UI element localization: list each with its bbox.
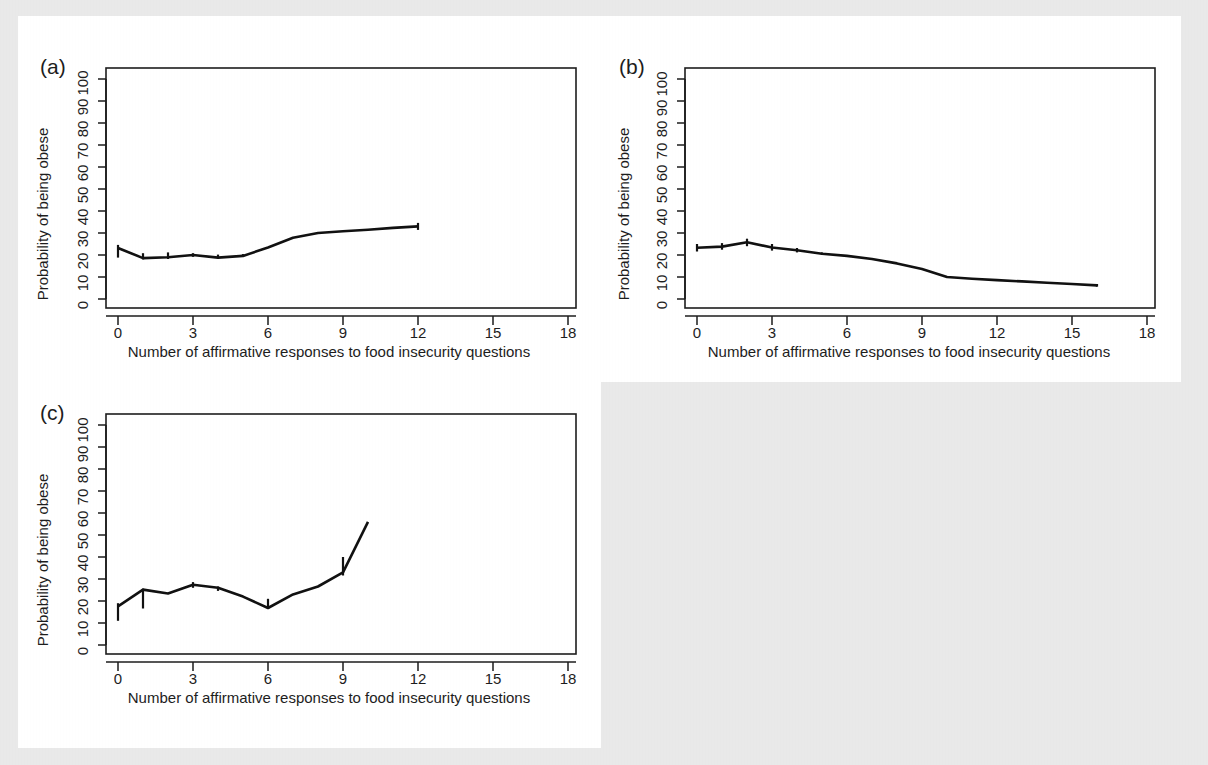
xtick-label: 0 xyxy=(114,324,122,341)
ytick-label: 90 xyxy=(653,100,670,117)
figure-root: (a) Probability of being obese Number of… xyxy=(0,0,1208,765)
ytick-label: 20 xyxy=(653,253,670,270)
panel-a: (a) Probability of being obese Number of… xyxy=(18,16,601,382)
ytick-label: 80 xyxy=(74,467,91,484)
ytick-label: 100 xyxy=(74,70,91,95)
panel-b-xtick-labels: 0 3 6 9 12 15 18 xyxy=(693,324,1156,341)
xtick-label: 18 xyxy=(1139,324,1156,341)
panel-a-svg: (a) Probability of being obese Number of… xyxy=(18,16,601,382)
panel-a-yticks xyxy=(98,79,106,299)
ytick-label: 40 xyxy=(74,555,91,572)
panel-a-xlabel: Number of affirmative responses to food … xyxy=(128,343,530,360)
xtick-label: 0 xyxy=(114,670,122,687)
panel-c-xlabel: Number of affirmative responses to food … xyxy=(128,689,530,706)
panel-c-ylabel: Probability of being obese xyxy=(34,474,51,647)
panel-b-xlabel: Number of affirmative responses to food … xyxy=(708,343,1110,360)
ytick-label: 100 xyxy=(74,417,91,442)
panel-c: (c) Probability of being obese Number of… xyxy=(18,382,601,748)
panel-b-yticks xyxy=(677,79,685,299)
xtick-label: 9 xyxy=(339,324,347,341)
xtick-label: 18 xyxy=(560,324,577,341)
ytick-label: 50 xyxy=(653,187,670,204)
xtick-label: 3 xyxy=(189,670,197,687)
panel-b: (b) Probability of being obese Number of… xyxy=(601,16,1181,382)
ytick-label: 0 xyxy=(653,301,670,309)
ytick-label: 50 xyxy=(74,187,91,204)
panel-b-ytick-labels: 0 10 20 30 40 50 60 70 80 90 100 xyxy=(653,71,670,309)
ytick-label: 70 xyxy=(74,489,91,506)
xtick-label: 3 xyxy=(189,324,197,341)
panel-c-data-line xyxy=(118,522,368,608)
xtick-label: 18 xyxy=(560,670,577,687)
panel-c-yticks xyxy=(98,425,106,645)
xtick-label: 6 xyxy=(264,324,272,341)
panel-b-plot-frame xyxy=(685,68,1155,308)
xtick-label: 15 xyxy=(485,670,502,687)
ytick-label: 0 xyxy=(74,301,91,309)
xtick-label: 3 xyxy=(768,324,776,341)
xtick-label: 12 xyxy=(410,670,427,687)
panel-a-letter: (a) xyxy=(40,55,66,78)
xtick-label: 15 xyxy=(485,324,502,341)
panel-b-ylabel: Probability of being obese xyxy=(615,128,632,301)
xtick-label: 6 xyxy=(264,670,272,687)
ytick-label: 60 xyxy=(653,165,670,182)
ytick-label: 10 xyxy=(74,275,91,292)
ytick-label: 60 xyxy=(74,511,91,528)
panel-b-data-line xyxy=(697,242,1097,285)
ytick-label: 90 xyxy=(74,446,91,463)
panel-a-data-line xyxy=(118,226,418,258)
xtick-label: 9 xyxy=(918,324,926,341)
ytick-label: 20 xyxy=(74,599,91,616)
ytick-label: 100 xyxy=(653,71,670,96)
panel-c-svg: (c) Probability of being obese Number of… xyxy=(18,382,601,748)
ytick-label: 90 xyxy=(74,99,91,116)
xtick-label: 12 xyxy=(989,324,1006,341)
ytick-label: 80 xyxy=(74,121,91,138)
xtick-label: 9 xyxy=(339,670,347,687)
panel-b-letter: (b) xyxy=(619,55,645,78)
ytick-label: 60 xyxy=(74,165,91,182)
ytick-label: 10 xyxy=(74,621,91,638)
xtick-label: 0 xyxy=(693,324,701,341)
panel-a-ytick-labels: 0 10 20 30 40 50 60 70 80 90 100 xyxy=(74,70,91,309)
ytick-label: 80 xyxy=(653,121,670,138)
ytick-label: 70 xyxy=(74,143,91,160)
panel-c-letter: (c) xyxy=(40,401,65,424)
xtick-label: 6 xyxy=(843,324,851,341)
xtick-label: 12 xyxy=(410,324,427,341)
panel-c-plot-frame xyxy=(106,414,576,654)
ytick-label: 50 xyxy=(74,533,91,550)
ytick-label: 40 xyxy=(653,209,670,226)
xtick-label: 15 xyxy=(1064,324,1081,341)
ytick-label: 70 xyxy=(653,143,670,160)
ytick-label: 10 xyxy=(653,275,670,292)
ytick-label: 20 xyxy=(74,253,91,270)
ytick-label: 30 xyxy=(653,231,670,248)
panel-b-svg: (b) Probability of being obese Number of… xyxy=(601,16,1181,382)
panel-a-xtick-labels: 0 3 6 9 12 15 18 xyxy=(114,324,577,341)
panel-a-plot-frame xyxy=(106,68,576,308)
panel-a-ylabel: Probability of being obese xyxy=(34,128,51,301)
panel-c-ytick-labels: 0 10 20 30 40 50 60 70 80 90 100 xyxy=(74,417,91,655)
ytick-label: 40 xyxy=(74,209,91,226)
ytick-label: 0 xyxy=(74,647,91,655)
ytick-label: 30 xyxy=(74,231,91,248)
panel-c-xtick-labels: 0 3 6 9 12 15 18 xyxy=(114,670,577,687)
ytick-label: 30 xyxy=(74,577,91,594)
